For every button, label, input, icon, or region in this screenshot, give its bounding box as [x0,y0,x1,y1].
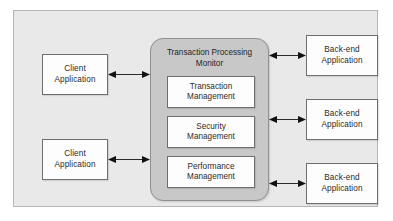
connector-client1-to-tpm [108,70,150,79]
back-end-application-label-3-line2: Application [321,184,362,195]
transaction-processing-monitor-title: Transaction Processing Monitor [151,48,268,69]
double-headed-arrow-icon [269,51,306,60]
back-end-application-box-3: Back-end Application [306,163,378,204]
performance-management-label-line1: Performance [188,162,235,173]
back-end-application-label-3-line1: Back-end [324,173,359,184]
back-end-application-label-2-line1: Back-end [324,109,359,120]
diagram-canvas: Client Application Client Application Tr… [0,0,393,221]
client-application-label-2-line1: Client [64,149,86,160]
client-application-box-2: Client Application [42,139,108,180]
transaction-processing-monitor-container: Transaction Processing Monitor Transacti… [150,38,269,201]
client-application-label-1-line1: Client [64,64,86,75]
security-management-label-line2: Management [187,132,235,143]
tpm-title-line2: Monitor [151,59,268,70]
back-end-application-box-1: Back-end Application [306,35,378,76]
double-headed-arrow-icon [269,179,306,188]
transaction-management-label-line1: Transaction [190,82,232,93]
client-application-label-2-line2: Application [54,160,95,171]
back-end-application-label-2-line2: Application [321,120,362,131]
double-headed-arrow-icon [269,115,306,124]
connector-tpm-to-backend3 [269,179,306,188]
diagram-panel: Client Application Client Application Tr… [13,10,378,207]
connector-tpm-to-backend1 [269,51,306,60]
transaction-management-label-line2: Management [187,92,235,103]
tpm-title-line1: Transaction Processing [151,48,268,59]
performance-management-label-line2: Management [187,172,235,183]
back-end-application-label-1-line2: Application [321,56,362,67]
security-management-box: Security Management [167,116,255,148]
performance-management-box: Performance Management [167,156,255,188]
connector-client2-to-tpm [108,155,150,164]
connector-tpm-to-backend2 [269,115,306,124]
client-application-box-1: Client Application [42,54,108,95]
back-end-application-label-1-line1: Back-end [324,45,359,56]
double-headed-arrow-icon [108,155,150,164]
security-management-label-line1: Security [196,122,226,133]
back-end-application-box-2: Back-end Application [306,99,378,140]
double-headed-arrow-icon [108,70,150,79]
client-application-label-1-line2: Application [54,75,95,86]
transaction-management-box: Transaction Management [167,76,255,108]
